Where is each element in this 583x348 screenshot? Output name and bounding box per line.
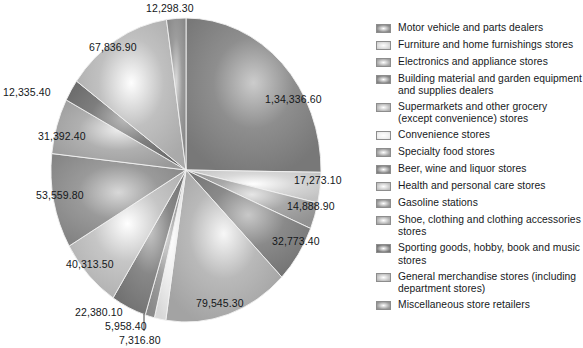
legend-item[interactable]: Shoe, clothing and clothing accessories … (376, 214, 583, 239)
legend-color-swatch (376, 165, 391, 174)
legend-color-swatch (376, 41, 391, 50)
legend-item[interactable]: Gasoline stations (376, 197, 583, 209)
pie-value-label: 7,316.80 (119, 334, 161, 346)
legend-item-label: Electronics and appliance stores (398, 56, 548, 68)
legend-color-swatch (376, 103, 391, 112)
legend-color-swatch (376, 301, 391, 310)
legend-item[interactable]: Beer, wine and liquor stores (376, 163, 583, 175)
legend-item[interactable]: Specialty food stores (376, 146, 583, 158)
legend-item[interactable]: Miscellaneous store retailers (376, 299, 583, 311)
legend-item-label: Furniture and home furnishings stores (398, 39, 573, 51)
pie-chart-figure: 12,298.301,34,336.6017,273.1014,888.9032… (0, 0, 583, 348)
chart-legend: Motor vehicle and parts dealersFurniture… (376, 22, 583, 316)
legend-color-swatch (376, 199, 391, 208)
legend-item[interactable]: Electronics and appliance stores (376, 56, 583, 68)
pie-value-label: 14,888.90 (287, 200, 335, 212)
legend-item-label: Motor vehicle and parts dealers (398, 22, 543, 34)
legend-color-swatch (376, 273, 391, 282)
legend-item-label: Convenience stores (398, 129, 490, 141)
pie-value-label: 5,958.40 (105, 320, 147, 332)
legend-color-swatch (376, 182, 391, 191)
pie-value-label: 79,545.30 (196, 297, 244, 309)
pie-value-label: 12,298.30 (146, 2, 194, 14)
legend-item-label: Specialty food stores (398, 146, 495, 158)
legend-color-swatch (376, 24, 391, 33)
legend-item[interactable]: Sporting goods, hobby, book and music st… (376, 242, 583, 267)
legend-item[interactable]: Furniture and home furnishings stores (376, 39, 583, 51)
pie-value-label: 17,273.10 (294, 174, 342, 186)
pie-chart-area: 12,298.301,34,336.6017,273.1014,888.9032… (0, 0, 372, 348)
pie-value-label: 40,313.50 (66, 258, 114, 270)
legend-item[interactable]: Health and personal care stores (376, 180, 583, 192)
legend-item[interactable]: General merchandise stores (including de… (376, 271, 583, 296)
legend-item[interactable]: Convenience stores (376, 129, 583, 141)
pie-value-label: 32,773.40 (272, 235, 320, 247)
pie-value-label: 53,559.80 (36, 189, 84, 201)
legend-color-swatch (376, 148, 391, 157)
legend-item-label: Beer, wine and liquor stores (398, 163, 526, 175)
pie-value-label: 12,335.40 (3, 86, 51, 98)
legend-color-swatch (376, 216, 391, 225)
legend-item-label: Building material and garden equipment a… (398, 73, 583, 98)
legend-color-swatch (376, 131, 391, 140)
legend-color-swatch (376, 244, 391, 253)
legend-item-label: Supermarkets and other grocery (except c… (398, 101, 583, 126)
legend-item[interactable]: Motor vehicle and parts dealers (376, 22, 583, 34)
legend-item-label: Gasoline stations (398, 197, 478, 209)
pie-value-label: 31,392.40 (38, 130, 86, 142)
legend-item-label: General merchandise stores (including de… (398, 271, 583, 296)
legend-item-label: Shoe, clothing and clothing accessories … (398, 214, 583, 239)
pie-value-label: 67,836.90 (89, 41, 137, 53)
legend-item-label: Miscellaneous store retailers (398, 299, 530, 311)
legend-color-swatch (376, 75, 391, 84)
legend-item[interactable]: Supermarkets and other grocery (except c… (376, 101, 583, 126)
pie-value-label: 22,380.10 (75, 306, 123, 318)
legend-item-label: Sporting goods, hobby, book and music st… (398, 242, 583, 267)
pie-value-label: 1,34,336.60 (265, 93, 322, 105)
legend-item[interactable]: Building material and garden equipment a… (376, 73, 583, 98)
legend-item-label: Health and personal care stores (398, 180, 546, 192)
legend-color-swatch (376, 58, 391, 67)
